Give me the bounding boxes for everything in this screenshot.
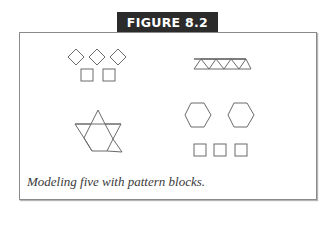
square-shape [235,144,247,156]
hexagon-shape [228,103,254,127]
figure-caption: Modeling five with pattern blocks. [27,174,205,190]
star-model [75,110,122,152]
rhombus-shape [110,49,126,65]
triangles-model [194,59,251,69]
triangle-strip-shape [194,59,251,69]
square-shape [214,144,226,156]
hexagons-and-squares-model [185,103,254,156]
square-shape [103,69,115,81]
square-shape [194,144,206,156]
rhombi-and-squares-model [68,49,126,81]
rhombus-shape [89,49,105,65]
rhombus-shape [68,49,84,65]
star-outline-shape [75,110,122,152]
hexagon-shape [185,103,211,127]
square-shape [81,69,93,81]
